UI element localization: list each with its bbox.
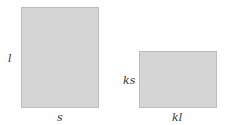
original-rectangle: [21, 7, 99, 108]
scaled-rectangle: [139, 51, 217, 108]
scaled-width-label: kl: [172, 112, 182, 123]
original-width-label: s: [57, 112, 63, 123]
scaled-height-label: ks: [123, 75, 135, 86]
original-height-label: l: [8, 53, 12, 64]
